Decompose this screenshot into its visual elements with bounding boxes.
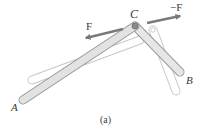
label-b: B [186,74,193,86]
linkage-diagram: C F −F B A (a) [0,0,209,132]
bar-ac [23,26,135,100]
label-c: C [130,7,139,21]
label-negf: −F [170,1,182,13]
force-negf-arrow [147,16,180,23]
pin-c [132,23,138,29]
figure-caption: (a) [100,114,111,126]
label-a: A [10,101,18,113]
label-f: F [86,20,92,32]
